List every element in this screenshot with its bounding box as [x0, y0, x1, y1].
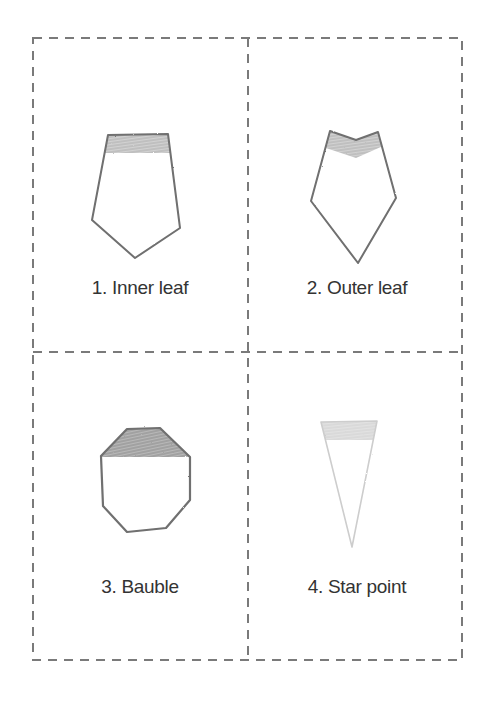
card-label-bauble: 3. Bauble: [40, 576, 240, 598]
inner-leaf-shape: [90, 134, 185, 258]
card-label-outer-leaf: 2. Outer leaf: [257, 277, 457, 299]
cut-out-sheet: [0, 0, 484, 704]
bauble-shape: [100, 426, 192, 532]
outer-leaf-shape: [311, 128, 396, 263]
star-point-shape: [318, 420, 380, 547]
card-label-star-point: 4. Star point: [257, 576, 457, 598]
cut-lines: [33, 38, 462, 660]
card-label-inner-leaf: 1. Inner leaf: [40, 277, 240, 299]
